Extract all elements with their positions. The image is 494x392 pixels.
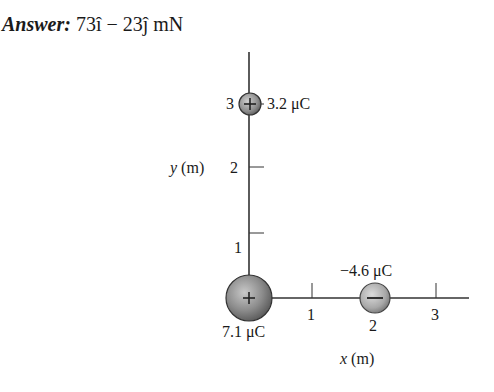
charge-right	[360, 283, 390, 313]
x-tick-label-2: 2	[369, 318, 377, 334]
x-tick-label-1: 1	[307, 307, 315, 323]
y-tick-label-1: 1	[234, 240, 242, 256]
charge-right-label: −4.6 μC	[340, 263, 392, 279]
charge-origin	[226, 275, 272, 321]
charge-top-label: 3.2 μC	[267, 96, 310, 112]
x-tick-label-3: 3	[431, 307, 439, 323]
charge-top	[239, 93, 261, 115]
y-tick-label-3: 3	[226, 96, 234, 112]
x-axis-label: x (m)	[340, 351, 374, 367]
y-axis-label: y (m)	[170, 160, 204, 176]
charge-origin-label: 7.1 μC	[222, 324, 265, 340]
y-tick-label-2: 2	[230, 160, 238, 176]
